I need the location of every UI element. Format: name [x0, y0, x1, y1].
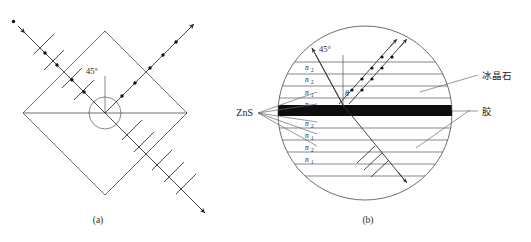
svg-text:2: 2	[311, 67, 314, 73]
svg-text:2: 2	[311, 79, 314, 85]
svg-text:n: n	[305, 131, 309, 140]
angle-label-a: 45°	[86, 66, 98, 76]
svg-text:n: n	[305, 155, 309, 164]
svg-text:n: n	[305, 63, 309, 72]
svg-text:2: 2	[311, 123, 314, 129]
cryolite-label: 冰晶石	[482, 70, 512, 81]
caption-a: (a)	[93, 215, 104, 226]
figure-root: 45°	[0, 0, 531, 242]
svg-text:1: 1	[311, 135, 314, 141]
angle-label-b: 45°	[319, 44, 331, 54]
caption-b: (b)	[362, 215, 373, 226]
svg-text:2: 2	[311, 147, 314, 153]
svg-text:n: n	[305, 143, 309, 152]
svg-text:n: n	[305, 100, 309, 109]
svg-text:1: 1	[311, 159, 314, 165]
zns-label: ZnS	[236, 107, 253, 118]
optics-figure: 45°	[0, 0, 531, 242]
svg-text:n: n	[305, 75, 309, 84]
glue-label: 胶	[482, 106, 492, 117]
